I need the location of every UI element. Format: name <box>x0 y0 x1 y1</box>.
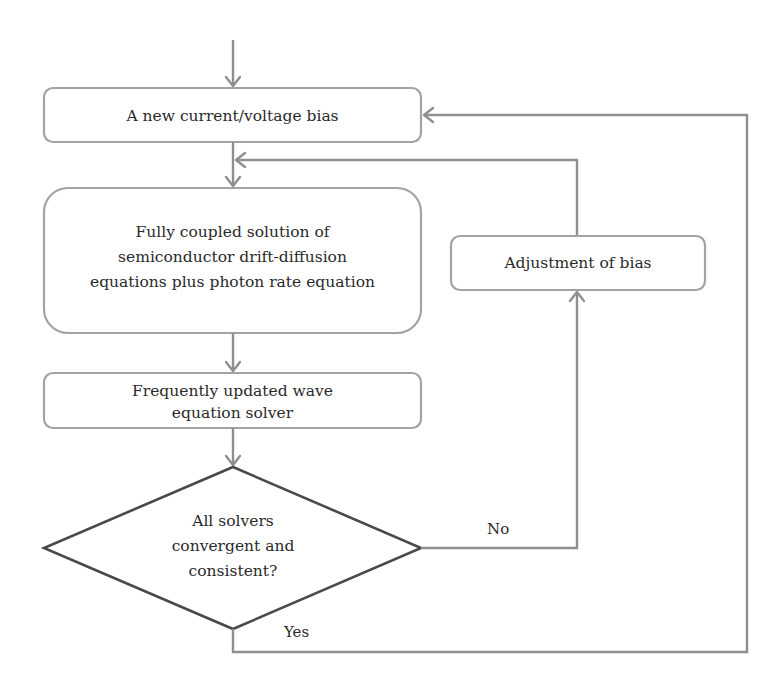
node-new-bias-label: A new current/voltage bias <box>125 107 338 125</box>
edge-label-yes: Yes <box>283 623 309 641</box>
node-wave-solver: Frequently updated wave equation solver <box>44 373 421 428</box>
edge-label-no: No <box>487 520 509 538</box>
node-new-bias: A new current/voltage bias <box>44 88 421 142</box>
coupled-line-1: Fully coupled solution of <box>136 223 331 241</box>
decision-line-2: convergent and <box>172 537 295 555</box>
node-coupled-solution: Fully coupled solution of semiconductor … <box>44 188 421 333</box>
arrow-no-to-adjust: No <box>421 292 584 548</box>
arrow-bias-to-coupled <box>226 142 240 186</box>
entry-arrow <box>226 40 240 86</box>
decision-line-3: consistent? <box>189 562 278 580</box>
node-adjust-bias-label: Adjustment of bias <box>503 254 651 272</box>
node-convergence-decision: All solvers convergent and consistent? <box>44 467 421 629</box>
arrow-coupled-to-wave <box>226 333 240 371</box>
wave-line-2: equation solver <box>172 404 294 422</box>
flowchart-figure: A new current/voltage bias Fully coupled… <box>0 0 778 688</box>
arrow-wave-to-decision <box>226 428 240 465</box>
decision-line-1: All solvers <box>191 512 274 530</box>
flowchart-canvas: A new current/voltage bias Fully coupled… <box>0 0 778 688</box>
coupled-line-3: equations plus photon rate equation <box>90 273 375 291</box>
node-adjust-bias: Adjustment of bias <box>451 236 705 290</box>
wave-line-1: Frequently updated wave <box>132 382 333 400</box>
coupled-line-2: semiconductor drift-diffusion <box>118 248 347 266</box>
